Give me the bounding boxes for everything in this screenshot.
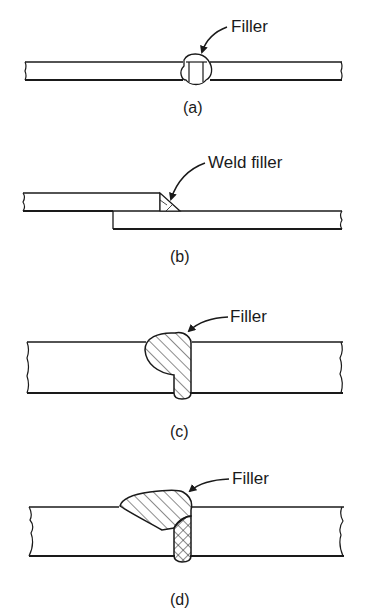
figure-d [29, 479, 344, 562]
weld-bead-a [181, 54, 212, 85]
caption-b: (b) [170, 249, 190, 265]
caption-a: (a) [183, 100, 203, 116]
callout-arrow-c [189, 317, 228, 331]
callout-label-a: Filler [231, 18, 268, 35]
callout-arrow-a [202, 27, 227, 52]
top-plate-b [23, 193, 160, 211]
callout-arrow-d [190, 479, 229, 491]
bottom-plate-b [113, 211, 342, 229]
callout-label-c: Filler [230, 308, 267, 325]
callout-label-b: Weld filler [208, 154, 282, 171]
figure-a [25, 27, 342, 85]
figure-b [23, 163, 342, 229]
weld-joints-diagram [0, 0, 368, 616]
caption-c: (c) [170, 424, 189, 440]
weld-filler-c [145, 333, 191, 399]
fillet-weld-b [160, 193, 180, 211]
caption-d: (d) [170, 592, 190, 608]
figure-c [27, 317, 343, 399]
callout-label-d: Filler [232, 470, 269, 487]
callout-arrow-b [171, 163, 205, 199]
